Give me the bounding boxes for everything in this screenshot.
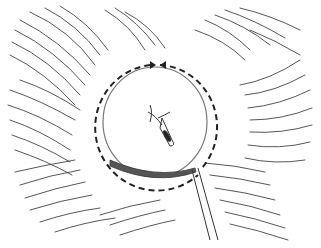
- instrument: [192, 168, 218, 240]
- circular-opening: [103, 67, 207, 177]
- illustration: [0, 0, 321, 248]
- sketch-drawing: [0, 0, 321, 248]
